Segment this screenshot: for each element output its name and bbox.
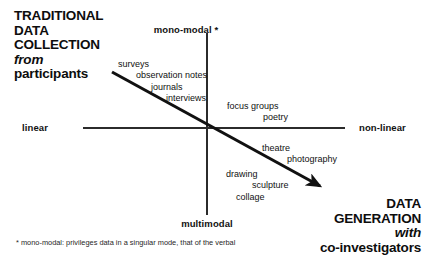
axis-label-linear: linear [22, 122, 48, 133]
item-label: photography [287, 154, 337, 165]
item-label: drawing [226, 169, 289, 180]
heading-emphasis: with [320, 226, 421, 241]
diagram-canvas: linear non-linear mono-modal * multimoda… [0, 0, 425, 267]
item-group-arts-methods: drawing sculpture collage [226, 169, 289, 203]
axis-label-mono-modal: mono-modal * [154, 24, 219, 35]
axis-label-multimodal: multimodal [181, 218, 233, 229]
footnote-mono-modal: * mono-modal: privileges data in a singu… [16, 238, 235, 247]
horizontal-axis-line [83, 127, 345, 129]
heading-traditional-data-collection: TRADITIONAL DATA COLLECTION from partici… [14, 9, 103, 82]
item-label: focus groups [227, 101, 288, 112]
item-label: interviews [166, 93, 207, 104]
heading-line: GENERATION [320, 212, 421, 227]
item-group-performative-methods: theatre photography [262, 143, 337, 166]
heading-line: DATA [14, 24, 103, 39]
item-label: observation notes [136, 70, 207, 81]
item-group-traditional-methods: surveys observation notes journals inter… [118, 59, 207, 105]
heading-emphasis: from [14, 53, 103, 68]
item-group-focus-methods: focus groups poetry [227, 101, 288, 124]
item-label: sculpture [252, 180, 289, 191]
heading-line: DATA [320, 197, 421, 212]
heading-line: participants [14, 67, 103, 82]
heading-line: TRADITIONAL [14, 9, 103, 24]
item-label: collage [236, 192, 289, 203]
item-label: surveys [118, 59, 207, 70]
heading-line: co-investigators [320, 241, 421, 256]
item-label: poetry [263, 112, 288, 123]
heading-line: COLLECTION [14, 38, 103, 53]
axis-label-non-linear: non-linear [359, 122, 406, 133]
item-label: theatre [262, 143, 337, 154]
item-label: journals [151, 82, 207, 93]
heading-data-generation: DATA GENERATION with co-investigators [320, 197, 421, 255]
